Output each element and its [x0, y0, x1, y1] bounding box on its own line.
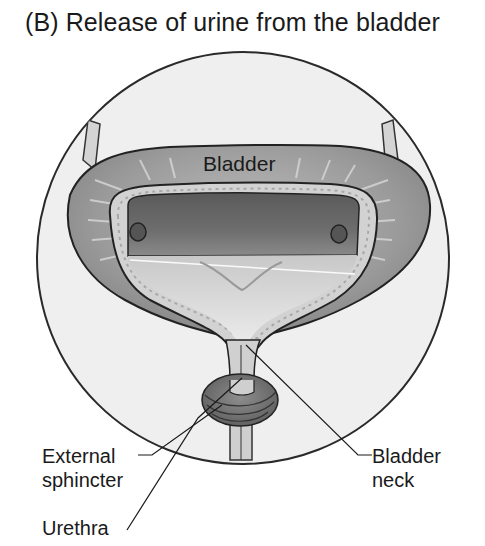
- label-bladder: Bladder: [203, 152, 275, 176]
- label-external-sphincter-line2: sphincter: [42, 468, 123, 492]
- label-urethra: Urethra: [42, 516, 109, 540]
- label-bladder-neck-line1: Bladder: [372, 444, 441, 468]
- left-ureter-opening: [130, 223, 146, 241]
- label-bladder-neck: Bladder neck: [372, 444, 441, 492]
- bladder-lumen-urine: [128, 193, 359, 256]
- label-external-sphincter: External sphincter: [42, 444, 123, 492]
- label-bladder-neck-line2: neck: [372, 468, 441, 492]
- label-external-sphincter-line1: External: [42, 444, 123, 468]
- external-sphincter: [202, 374, 278, 426]
- right-ureter-opening: [331, 225, 347, 243]
